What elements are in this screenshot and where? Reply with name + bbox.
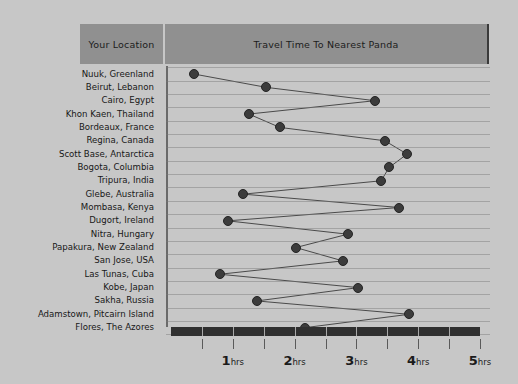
gridline <box>166 187 490 188</box>
axis-tick-number: 1 <box>222 353 231 368</box>
axis-tick <box>418 339 419 349</box>
category-label: Beirut, Lebanon <box>0 83 158 92</box>
axis-tick-label: 3hrs <box>345 350 367 369</box>
category-label: Adamstown, Pitcairn Island <box>0 310 158 319</box>
axis-segment-divider <box>449 327 450 336</box>
axis-tick-unit: hrs <box>416 357 429 367</box>
gridline <box>166 241 490 242</box>
category-label: Las Tunas, Cuba <box>0 270 158 279</box>
axis-tick <box>387 339 388 349</box>
axis-segment-divider <box>202 327 203 336</box>
location-column-header: Your Location <box>80 24 163 64</box>
axis-tick-number: 5 <box>469 353 478 368</box>
gridline <box>166 174 490 175</box>
category-label: Cairo, Egypt <box>0 96 158 105</box>
x-axis-bar <box>171 327 480 336</box>
gridline <box>166 214 490 215</box>
data-point-marker[interactable] <box>394 203 404 213</box>
axis-tick-unit: hrs <box>354 357 367 367</box>
axis-segment-divider <box>264 327 265 336</box>
category-label-column: Nuuk, GreenlandBeirut, LebanonCairo, Egy… <box>0 66 158 327</box>
data-point-marker[interactable] <box>338 256 348 266</box>
axis-segment-divider <box>356 327 357 336</box>
category-label: San Jose, USA <box>0 256 158 265</box>
gridline <box>166 147 490 148</box>
gridline <box>166 107 490 108</box>
gridline <box>166 121 490 122</box>
series-line <box>166 66 490 327</box>
category-label: Regina, Canada <box>0 136 158 145</box>
axis-tick <box>264 339 265 349</box>
axis-tick <box>449 339 450 349</box>
data-point-marker[interactable] <box>189 69 199 79</box>
gridline <box>166 161 490 162</box>
gridline <box>166 268 490 269</box>
category-label: Khon Kaen, Thailand <box>0 110 158 119</box>
gridline <box>166 94 490 95</box>
category-label: Mombasa, Kenya <box>0 203 158 212</box>
axis-tick-number: 2 <box>283 353 292 368</box>
gridline <box>166 134 490 135</box>
gridline <box>166 81 490 82</box>
axis-segment-divider <box>418 327 419 336</box>
category-label: Dugort, Ireland <box>0 216 158 225</box>
data-point-marker[interactable] <box>380 136 390 146</box>
axis-tick <box>480 339 481 349</box>
category-label: Sakha, Russia <box>0 296 158 305</box>
data-point-marker[interactable] <box>291 243 301 253</box>
category-label: Nitra, Hungary <box>0 230 158 239</box>
axis-tick-number: 3 <box>345 353 354 368</box>
axis-segment-divider <box>387 327 388 336</box>
category-label: Kobe, Japan <box>0 283 158 292</box>
data-point-marker[interactable] <box>353 283 363 293</box>
axis-tick <box>295 339 296 349</box>
axis-tick-unit: hrs <box>231 357 244 367</box>
axis-segment-divider <box>295 327 296 336</box>
value-column-header-label: Travel Time To Nearest Panda <box>253 39 398 50</box>
gridline <box>166 308 490 309</box>
axis-tick <box>326 339 327 349</box>
axis-tick <box>233 339 234 349</box>
axis-tick-label: 5hrs <box>469 350 491 369</box>
data-point-marker[interactable] <box>370 96 380 106</box>
gridline <box>166 294 490 295</box>
axis-tick-number: 4 <box>407 353 416 368</box>
data-point-marker[interactable] <box>252 296 262 306</box>
axis-tick-label: 4hrs <box>407 350 429 369</box>
gridline <box>166 321 490 322</box>
gridline <box>166 67 490 68</box>
category-label: Nuuk, Greenland <box>0 70 158 79</box>
gridline <box>166 228 490 229</box>
category-label: Bogota, Columbia <box>0 163 158 172</box>
data-point-marker[interactable] <box>376 176 386 186</box>
category-label: Bordeaux, France <box>0 123 158 132</box>
plot-area <box>166 66 490 327</box>
chart-canvas: Your Location Travel Time To Nearest Pan… <box>0 0 518 384</box>
axis-tick-label: 2hrs <box>283 350 305 369</box>
category-label: Glebe, Australia <box>0 190 158 199</box>
category-label: Papakura, New Zealand <box>0 243 158 252</box>
value-column-header: Travel Time To Nearest Panda <box>165 24 489 64</box>
axis-tick <box>356 339 357 349</box>
axis-tick-unit: hrs <box>292 357 305 367</box>
category-label: Scott Base, Antarctica <box>0 150 158 159</box>
axis-tick-unit: hrs <box>478 357 491 367</box>
gridline <box>166 201 490 202</box>
location-column-header-label: Your Location <box>88 39 154 50</box>
category-label: Flores, The Azores <box>0 323 158 332</box>
axis-tick-label: 1hrs <box>222 350 244 369</box>
axis-tick <box>202 339 203 349</box>
axis-segment-divider <box>326 327 327 336</box>
gridline <box>166 281 490 282</box>
data-point-marker[interactable] <box>223 216 233 226</box>
category-label: Tripura, India <box>0 176 158 185</box>
axis-segment-divider <box>233 327 234 336</box>
gridline <box>166 254 490 255</box>
data-point-marker[interactable] <box>343 229 353 239</box>
data-point-marker[interactable] <box>244 109 254 119</box>
